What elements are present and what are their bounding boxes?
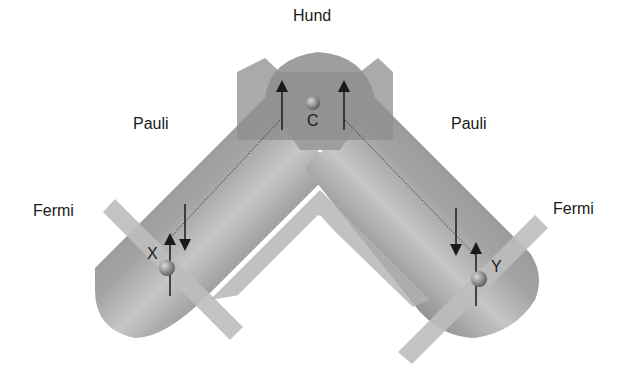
- fermi-label-right: Fermi: [553, 200, 594, 218]
- atom-x-icon: [159, 260, 175, 276]
- atom-x-label: X: [147, 245, 158, 263]
- hund-label: Hund: [293, 7, 331, 25]
- orbital-tube-diagram: [0, 0, 638, 383]
- pauli-label-right: Pauli: [451, 115, 487, 133]
- fermi-label-left: Fermi: [33, 202, 74, 220]
- atom-c-icon: [306, 96, 320, 110]
- atom-c-label: C: [307, 112, 319, 130]
- pauli-label-left: Pauli: [133, 115, 169, 133]
- atom-y-icon: [471, 271, 487, 287]
- atom-y-label: Y: [491, 258, 502, 276]
